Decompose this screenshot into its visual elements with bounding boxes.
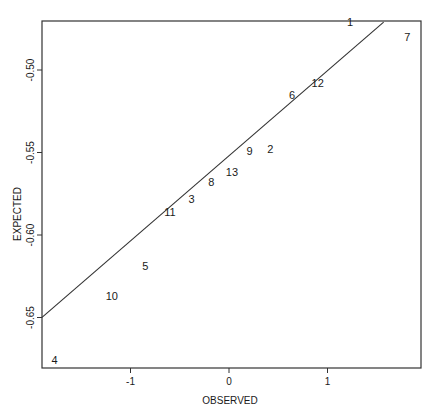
point-label-4: 4: [52, 354, 58, 366]
point-label-10: 10: [106, 290, 118, 302]
reference-line: [42, 22, 384, 317]
point-label-8: 8: [208, 176, 214, 188]
y-tick-label: -0.65: [25, 306, 36, 329]
plot-frame: [42, 21, 421, 368]
point-label-5: 5: [142, 260, 148, 272]
point-label-7: 7: [404, 31, 410, 43]
y-axis-ticks: -0.65-0.60-0.55-0.50: [25, 58, 42, 329]
data-points: 12345678910111213: [52, 16, 411, 366]
x-axis-label: OBSERVED: [202, 395, 257, 406]
y-tick-label: -0.50: [25, 58, 36, 81]
x-tick-label: 1: [325, 376, 331, 387]
point-label-12: 12: [312, 77, 324, 89]
point-label-13: 13: [226, 166, 238, 178]
point-label-1: 1: [347, 16, 353, 28]
y-tick-label: -0.60: [25, 223, 36, 246]
point-label-9: 9: [247, 145, 253, 157]
point-label-11: 11: [164, 206, 175, 218]
x-tick-label: 0: [226, 376, 232, 387]
point-label-2: 2: [267, 143, 273, 155]
y-axis-label: EXPECTED: [12, 187, 23, 241]
y-tick-label: -0.55: [25, 141, 36, 164]
x-tick-label: -1: [126, 376, 135, 387]
point-label-3: 3: [189, 193, 195, 205]
x-axis-ticks: -101: [126, 368, 331, 387]
point-label-6: 6: [289, 89, 295, 101]
